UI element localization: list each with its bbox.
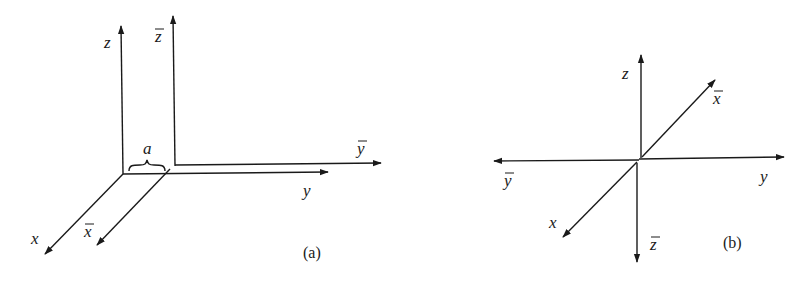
label-z-bar-a: z [154, 27, 162, 46]
x-axis-b [563, 162, 637, 237]
label-y-bar-a: y [355, 139, 365, 158]
caption-a: (a) [303, 244, 321, 262]
label-z-a: z [103, 33, 111, 52]
label-y-bar-b: y [502, 171, 512, 190]
offset-brace [129, 160, 165, 171]
label-y-b: y [758, 167, 768, 186]
y-bar-axis-a [175, 163, 381, 165]
label-y-a: y [301, 181, 311, 200]
label-x-b: x [548, 213, 557, 232]
label-offset-a: a [143, 139, 152, 158]
x-axis-a [45, 174, 123, 254]
panel-b: z x y y x z (b) [494, 55, 784, 262]
x-bar-axis-a [97, 169, 170, 245]
coordinate-frames-diagram: z z a y y x x (a) z x y y x z (b) [0, 0, 808, 287]
label-x-bar-b: x [712, 89, 721, 108]
label-z-bar-b: z [649, 235, 657, 254]
y-axis-a [123, 172, 328, 174]
label-x-bar-a: x [83, 222, 92, 241]
y-bar-axis-b [494, 160, 639, 161]
x-bar-axis-b [642, 80, 715, 157]
z-bar-axis-a [173, 16, 175, 166]
panel-a: z z a y y x x (a) [30, 16, 381, 262]
label-z-b: z [621, 64, 629, 83]
y-axis-b [639, 157, 784, 159]
z-axis-a [121, 26, 123, 174]
caption-b: (b) [723, 234, 742, 252]
label-x-a: x [30, 229, 39, 248]
